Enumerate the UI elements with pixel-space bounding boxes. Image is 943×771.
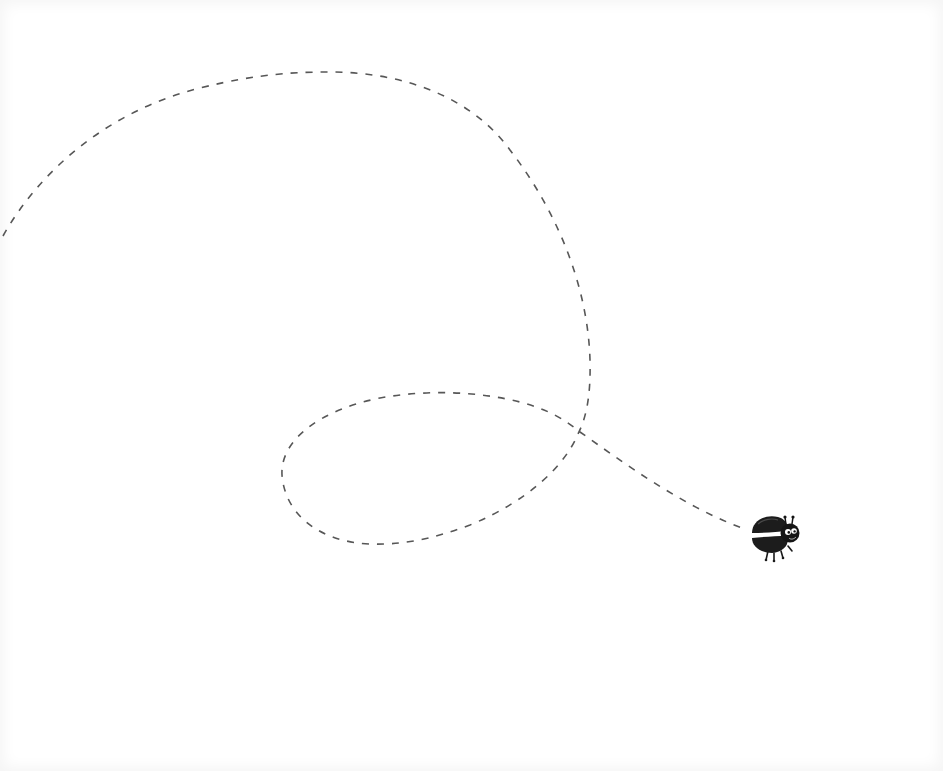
beetle-character (752, 515, 800, 562)
flight-path-illustration (0, 0, 943, 771)
illustration-canvas: Cartoon black beetle flying along a loop… (0, 0, 943, 771)
dashed-flight-path (3, 72, 742, 544)
